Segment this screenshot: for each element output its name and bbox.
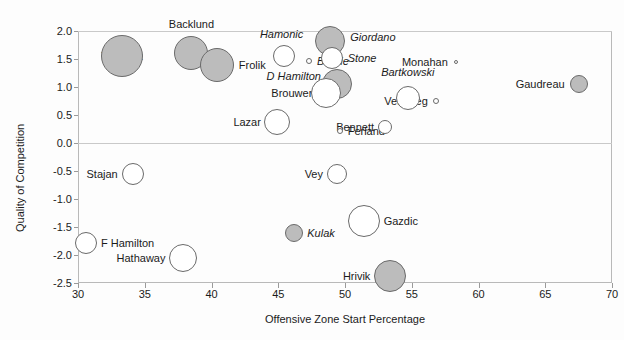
y-tick-label: -2.5 [34,277,72,289]
data-point-label: Monahan [402,56,448,68]
y-tick-mark [74,171,78,172]
y-tick-mark [74,87,78,88]
data-point-bubble[interactable] [264,109,290,135]
data-point-bubble[interactable] [101,35,143,77]
data-point-label: D Hamilton [267,70,321,82]
clipped-title [0,0,624,14]
data-point-label: Lazar [233,116,261,128]
data-point-bubble[interactable] [169,244,197,272]
y-tick-label: -2.0 [34,249,72,261]
y-axis-title: Quality of Competition [14,124,26,232]
gridline [78,31,612,32]
data-point-bubble[interactable] [348,205,380,237]
y-tick-label: -0.5 [34,165,72,177]
data-point-label: Kulak [307,227,335,239]
y-tick-label: 1.5 [34,53,72,65]
x-tick-label: 65 [539,288,551,300]
data-point-label: Hrivik [343,270,371,282]
data-point-label: F Hamilton [101,237,154,249]
x-tick-label: 40 [205,288,217,300]
gridline [78,143,612,144]
data-point-bubble[interactable] [75,232,97,254]
x-tick-label: 30 [72,288,84,300]
data-point-label: Brouwer [271,87,312,99]
data-point-bubble[interactable] [122,163,144,185]
x-tick-label: 35 [139,288,151,300]
data-point-bubble[interactable] [321,47,343,69]
data-point-bubble[interactable] [374,260,406,292]
y-tick-label: 1.0 [34,81,72,93]
y-tick-mark [74,115,78,116]
y-tick-mark [74,199,78,200]
data-point-bubble[interactable] [200,48,234,82]
x-tick-label: 70 [606,288,618,300]
data-point-bubble[interactable] [433,98,439,104]
x-tick-label: 50 [339,288,351,300]
data-point-label: Backlund [169,18,214,30]
data-point-bubble[interactable] [273,45,295,67]
y-tick-mark [74,283,78,284]
data-point-bubble[interactable] [396,86,420,110]
data-point-bubble[interactable] [327,164,347,184]
data-point-bubble[interactable] [570,75,588,93]
plot-area [78,31,612,283]
chart-canvas: Quality of Competition Offensive Zone St… [0,0,624,340]
data-point-label: Stone [348,52,377,64]
data-point-bubble[interactable] [285,224,303,242]
data-point-bubble[interactable] [378,120,392,134]
y-tick-label: 0.5 [34,109,72,121]
x-axis-title: Offensive Zone Start Percentage [265,313,425,325]
data-point-label: Vey [305,168,323,180]
x-tick-label: 60 [472,288,484,300]
data-point-label: Stajan [87,168,118,180]
data-point-label: Hathaway [117,252,166,264]
y-tick-mark [74,227,78,228]
data-point-bubble[interactable] [454,60,458,64]
x-tick-label: 55 [406,288,418,300]
y-tick-label: -1.5 [34,221,72,233]
data-point-bubble[interactable] [311,78,341,108]
y-tick-mark [74,255,78,256]
y-tick-label: 2.0 [34,25,72,37]
data-point-label: Frolik [239,59,266,71]
data-point-label: Bartkowski [381,66,434,78]
y-tick-label: -1.0 [34,193,72,205]
data-point-label: Giordano [350,31,395,43]
y-tick-label: 0.0 [34,137,72,149]
data-point-bubble[interactable] [337,128,343,134]
data-point-label: Gazdic [384,215,418,227]
data-point-label: Gaudreau [516,78,565,90]
x-tick-label: 45 [272,288,284,300]
y-tick-mark [74,59,78,60]
data-point-label: Hamonic [260,28,303,40]
data-point-bubble[interactable] [306,58,312,64]
